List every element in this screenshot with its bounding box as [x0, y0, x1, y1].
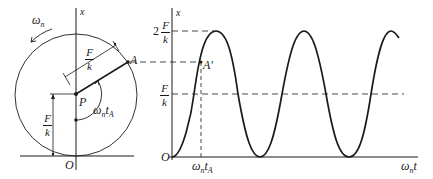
point-P-dot	[74, 92, 78, 96]
plot-origin-O: O	[161, 151, 170, 163]
point-P-label: P	[79, 96, 86, 108]
offset-F-over-k-label: Fk	[43, 113, 52, 138]
offset-arrow-top	[51, 94, 55, 99]
x-axis-label: x	[80, 7, 84, 17]
radius-arrow-tip	[114, 43, 116, 45]
angle-omega-n-tA-label: ωntA	[93, 104, 114, 119]
y-tick-Fk: Fk	[160, 83, 169, 108]
lower-point-dot	[74, 118, 78, 122]
diagram-canvas	[0, 0, 433, 179]
point-A-prime-label: A′	[203, 59, 213, 71]
offset-arrow-bottom	[52, 153, 54, 155]
point-A-label: A	[130, 54, 137, 66]
radius-F-over-k-label: Fk	[85, 47, 94, 72]
displacement-plot	[169, 8, 418, 160]
omega-n-rotation-label: ωn	[32, 14, 44, 29]
x-tick-omega-n-tA: ωntA	[192, 160, 213, 175]
plot-x-axis-label: ωnt	[401, 160, 417, 175]
origin-O-left: O	[65, 159, 74, 171]
y-tick-2Fk-coef: 2	[153, 24, 159, 39]
radius-PA	[76, 62, 128, 94]
plot-y-axis-label: x	[176, 8, 180, 18]
y-tick-2Fk: Fk	[161, 20, 170, 45]
